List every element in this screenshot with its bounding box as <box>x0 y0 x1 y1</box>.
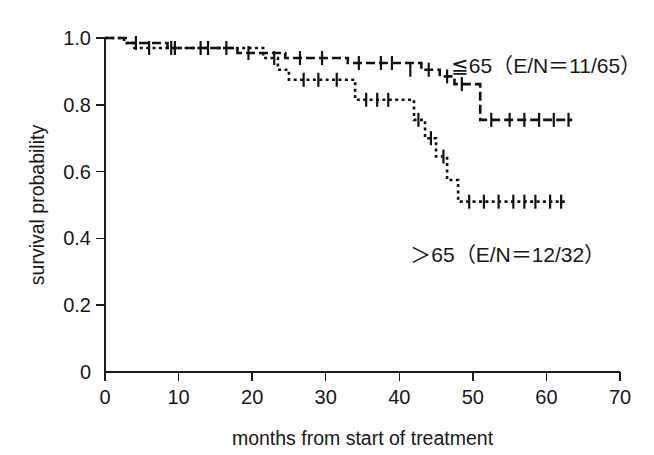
y-tick-label: 1.0 <box>63 27 91 49</box>
series-legend-label-2: ＞65（E/N＝12/32） <box>410 243 605 266</box>
y-axis-title: survival probability <box>26 125 48 286</box>
x-axis-title: months from start of treatment <box>232 427 494 449</box>
x-tick-label: 40 <box>388 386 410 408</box>
x-tick-label: 0 <box>99 386 110 408</box>
kaplan-meier-chart: 01020304050607000.20.40.60.81.0 ≦65（E/N＝… <box>0 0 654 455</box>
series-legend-label-1: ≦65（E/N＝11/65） <box>451 54 641 77</box>
y-tick-label: 0.4 <box>63 227 91 249</box>
x-tick-label: 70 <box>609 386 631 408</box>
x-tick-label: 10 <box>167 386 189 408</box>
y-tick-label: 0 <box>80 361 91 383</box>
x-tick-label: 30 <box>315 386 337 408</box>
y-tick-label: 0.6 <box>63 161 91 183</box>
y-tick-label: 0.8 <box>63 94 91 116</box>
x-tick-label: 60 <box>535 386 557 408</box>
survival-curve-figure: 01020304050607000.20.40.60.81.0 ≦65（E/N＝… <box>0 0 654 455</box>
y-tick-label: 0.2 <box>63 294 91 316</box>
x-tick-label: 50 <box>462 386 484 408</box>
x-tick-label: 20 <box>241 386 263 408</box>
